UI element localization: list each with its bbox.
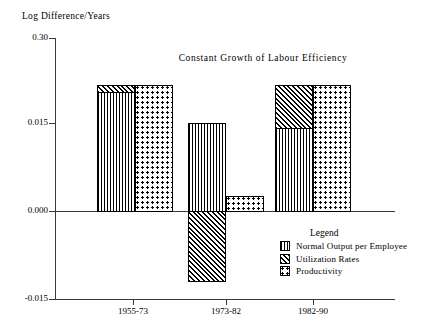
legend-item-normal-output: Normal Output per Employee	[280, 241, 446, 251]
bar-productivity-1982-90	[313, 85, 351, 212]
bar-productivity-1973-82	[226, 196, 264, 212]
bar-utilization-1982-90	[275, 85, 313, 129]
legend-title: Legend	[310, 228, 446, 238]
x-tick-label: 1982-90	[268, 306, 358, 316]
bar-normal-output-1955-73	[97, 92, 135, 212]
y-tick-mark	[49, 123, 56, 124]
y-tick-label: 0.30	[2, 32, 48, 42]
legend-item-productivity: Productivity	[280, 266, 446, 276]
y-tick-label: 0.000	[2, 205, 48, 215]
y-tick-group: -0.015	[0, 299, 56, 300]
x-tick-label: 1955-73	[88, 306, 178, 316]
legend-item-utilization-rates: Utilization Rates	[280, 254, 446, 264]
y-tick-label: 0.015	[2, 117, 48, 127]
legend-label: Productivity	[296, 266, 342, 276]
chart-title: Constant Growth of Labour Efficiency	[0, 53, 446, 63]
x-tick-label: 1973-82	[181, 306, 271, 316]
x-tick-mark	[226, 299, 227, 305]
x-axis-line	[55, 299, 395, 300]
y-axis-line	[55, 38, 56, 300]
bar-utilization-1955-73	[97, 85, 135, 93]
legend-label: Utilization Rates	[296, 254, 359, 264]
bar-utilization-1973-82	[188, 211, 226, 282]
y-tick-label: -0.015	[2, 293, 48, 303]
bar-normal-output-1982-90	[275, 128, 313, 212]
legend-label: Normal Output per Employee	[296, 241, 407, 251]
chart-canvas: Log Difference/Years Constant Growth of …	[0, 0, 446, 331]
legend-swatch-vertical-lines-icon	[280, 241, 290, 251]
y-axis-title: Log Difference/Years	[22, 11, 110, 21]
y-tick-group: 0.30	[0, 38, 56, 39]
legend-swatch-diagonal-hatch-icon	[280, 254, 290, 264]
legend: Legend Normal Output per Employee Utiliz…	[280, 228, 446, 279]
y-tick-mark	[49, 38, 56, 39]
y-tick-mark	[49, 299, 56, 300]
x-tick-mark	[313, 299, 314, 305]
bar-normal-output-1973-82	[188, 123, 226, 212]
bar-productivity-1955-73	[135, 85, 173, 212]
y-tick-group: 0.015	[0, 123, 56, 124]
y-tick-group: 0.000	[0, 211, 56, 212]
legend-swatch-checker-dots-icon	[280, 266, 290, 276]
x-tick-mark	[133, 299, 134, 305]
y-tick-mark	[49, 211, 56, 212]
